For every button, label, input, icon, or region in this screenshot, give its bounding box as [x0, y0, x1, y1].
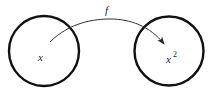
mapping-label-f: f [105, 4, 110, 16]
codomain-exponent-label: 2 [173, 50, 177, 59]
domain-set-circle [9, 16, 79, 86]
function-mapping-diagram: f x x 2 [0, 0, 212, 92]
codomain-element-label: x [165, 53, 171, 65]
mapping-arrow [50, 19, 164, 44]
domain-element-label: x [37, 51, 43, 63]
